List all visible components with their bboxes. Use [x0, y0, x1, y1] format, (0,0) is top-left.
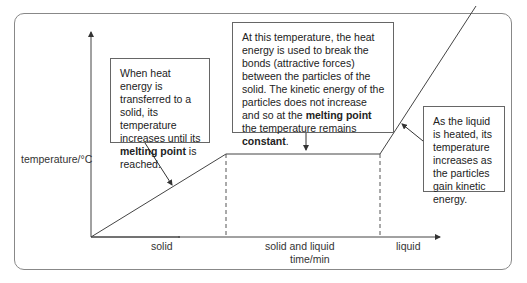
melting-callout: At this temperature, the heat energy is … [232, 22, 394, 133]
solid-callout: When heat energy is transferred to a sol… [110, 58, 210, 143]
x-axis-label: time/min [290, 253, 330, 265]
region-label-solid-and-liquid: solid and liquid [265, 240, 334, 252]
region-label-solid: solid [151, 240, 173, 252]
liquid-callout-arrow [402, 124, 423, 141]
y-axis-label: temperature/°C [21, 153, 92, 165]
liquid-callout: As the liquid is heated, its temperature… [423, 106, 505, 192]
region-label-liquid: liquid [396, 240, 421, 252]
